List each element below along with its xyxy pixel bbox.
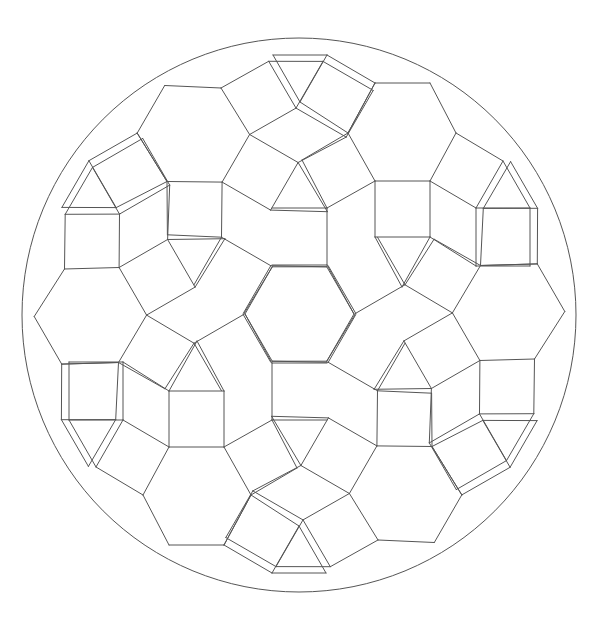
tiling-edge bbox=[96, 420, 123, 467]
tiling-edge bbox=[250, 135, 299, 163]
tiling-edge bbox=[328, 266, 356, 314]
tiling-edge bbox=[374, 341, 404, 389]
tiling-edge bbox=[534, 359, 535, 414]
tiling-edge bbox=[143, 138, 170, 185]
tiling-edge bbox=[298, 137, 346, 162]
tiling-edge bbox=[348, 133, 375, 181]
tiling-edge bbox=[432, 420, 483, 446]
tiling-edge bbox=[169, 341, 197, 391]
tiling-edge bbox=[431, 361, 480, 389]
tiling-edge bbox=[251, 468, 297, 495]
tiling-edge bbox=[430, 181, 476, 208]
tiling-edge bbox=[116, 363, 119, 420]
tiling-edge bbox=[226, 491, 253, 538]
tiling-edge bbox=[301, 466, 350, 494]
tiling-edge bbox=[89, 161, 116, 208]
tiling-edge bbox=[303, 520, 330, 567]
tiling-edge bbox=[224, 545, 272, 573]
tiling-edge bbox=[429, 443, 456, 490]
tiling-edge bbox=[301, 418, 329, 466]
tiling-edge bbox=[167, 182, 222, 183]
tiling-edge bbox=[61, 420, 88, 467]
tiling-edge bbox=[378, 343, 406, 391]
tiling-edge bbox=[222, 182, 223, 237]
tiling-edge bbox=[226, 538, 276, 567]
tiling-edge bbox=[34, 269, 64, 317]
tiling-edge bbox=[120, 185, 170, 214]
tiling-edge bbox=[483, 420, 510, 467]
tiling-edge bbox=[62, 363, 119, 365]
tiling-edge bbox=[137, 86, 165, 134]
tiling-edge bbox=[430, 133, 456, 181]
tiling-edge bbox=[89, 133, 137, 161]
tiling-edge bbox=[269, 61, 296, 108]
tiling-edge bbox=[224, 420, 272, 447]
tiling-edge bbox=[221, 61, 269, 88]
tiling-edge bbox=[123, 420, 169, 447]
tiling-edge bbox=[404, 341, 432, 389]
tiling-edge bbox=[328, 418, 377, 446]
tiling-edge bbox=[349, 494, 378, 541]
tiling-edge bbox=[378, 237, 406, 285]
tiling-edge bbox=[328, 362, 377, 391]
tiling-edge bbox=[62, 161, 89, 208]
tiling-edge bbox=[243, 267, 272, 315]
tiling-edge bbox=[143, 447, 169, 495]
tiling-edge bbox=[93, 138, 143, 167]
tiling-edge bbox=[224, 495, 251, 545]
tiling-edge bbox=[147, 315, 194, 343]
tiling-edge bbox=[253, 466, 301, 491]
tiling-edge bbox=[434, 239, 480, 265]
tiling-edge bbox=[272, 416, 329, 418]
tiling-edge bbox=[34, 317, 62, 365]
tiling-edge bbox=[483, 162, 510, 209]
tiling-edge bbox=[429, 389, 431, 443]
tiling-edge bbox=[88, 420, 115, 467]
tiling-edge bbox=[404, 313, 453, 341]
tiling-edge bbox=[327, 55, 375, 83]
tiling-edge bbox=[119, 363, 165, 389]
tiling-edge bbox=[430, 83, 456, 133]
tiling-edge bbox=[480, 359, 535, 361]
tiling-edge bbox=[377, 446, 432, 447]
tiling-edge bbox=[273, 55, 300, 102]
tiling-edge bbox=[298, 163, 327, 212]
tiling-edge bbox=[296, 108, 346, 137]
tiling-edge bbox=[119, 268, 147, 316]
tiling-edge bbox=[272, 526, 299, 573]
tiling-edge bbox=[537, 264, 565, 312]
tiling-edge bbox=[476, 161, 503, 208]
tiling-edge bbox=[194, 343, 222, 391]
tiling-edge bbox=[429, 414, 479, 443]
tiling-edge bbox=[165, 343, 194, 389]
tiling-edge bbox=[535, 312, 565, 360]
tiling-edge bbox=[302, 133, 348, 160]
tiling-edge bbox=[327, 265, 354, 314]
tiling-edge bbox=[250, 108, 296, 134]
tiling-edge bbox=[222, 182, 271, 210]
tiling-edge bbox=[346, 90, 373, 137]
outer-circle bbox=[22, 38, 576, 592]
tiling-edge bbox=[65, 268, 120, 270]
tiling-edge bbox=[452, 266, 480, 313]
tiling-edge bbox=[510, 421, 537, 468]
tiling-edge bbox=[302, 160, 327, 208]
tiling-edge bbox=[197, 341, 224, 391]
tiling-edge bbox=[432, 447, 462, 495]
tiling-edge bbox=[165, 86, 221, 89]
tiling-edge bbox=[272, 420, 297, 468]
tiling-edge bbox=[137, 133, 167, 181]
tiling-edge bbox=[222, 237, 271, 266]
tiling-edge bbox=[119, 315, 147, 362]
tiling-edge bbox=[271, 210, 328, 212]
tiling-edge bbox=[168, 185, 170, 239]
tiling-edge bbox=[402, 237, 430, 287]
tiling-lines bbox=[34, 55, 565, 573]
tiling-edge bbox=[243, 315, 270, 363]
tiling-edge bbox=[300, 102, 348, 133]
tiling-edge bbox=[296, 61, 323, 108]
tiling-edge bbox=[327, 181, 375, 208]
tiling-edge bbox=[243, 266, 270, 314]
tiling-edge bbox=[405, 285, 452, 313]
tiling-edge bbox=[405, 239, 434, 285]
